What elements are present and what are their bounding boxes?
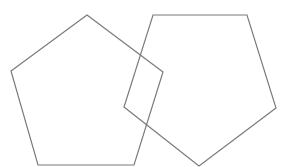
pentagons-svg [0, 0, 287, 167]
right-pentagon [124, 15, 276, 166]
left-pentagon [11, 15, 163, 165]
diagram-canvas [0, 0, 287, 167]
